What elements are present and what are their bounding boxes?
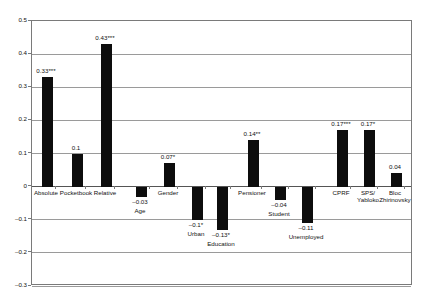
bar-value-label: –0.1* [168, 221, 224, 228]
bar [101, 44, 112, 186]
bar-value-label: 0.33*** [18, 67, 74, 74]
x-axis-label: Pensioner [222, 189, 282, 196]
y-tick-label: 0.4 [1, 49, 27, 56]
gridline [32, 153, 411, 154]
bar [364, 130, 375, 186]
y-tick-label: –0.1 [1, 215, 27, 222]
y-tick-label: –0.2 [1, 248, 27, 255]
x-axis-label: Gender [138, 189, 198, 196]
x-tick-mark [261, 186, 262, 189]
bar [42, 77, 53, 186]
y-tick-label: 0.2 [1, 115, 27, 122]
bar [337, 130, 348, 186]
bar-value-label: 0.04 [367, 163, 423, 170]
x-axis-label: Education [191, 240, 251, 247]
bar-value-label: –0.13* [193, 231, 249, 238]
gridline [32, 286, 411, 287]
y-tick-label: 0 [1, 182, 27, 189]
y-tick-label: 0.1 [1, 149, 27, 156]
bar-value-label: 0.07* [140, 153, 196, 160]
gridline [32, 87, 411, 88]
x-tick-mark [114, 186, 115, 189]
bar-value-label: –0.11 [278, 224, 334, 231]
y-tick-label: 0.3 [1, 82, 27, 89]
bar-value-label: –0.04 [251, 201, 307, 208]
x-tick-mark [205, 186, 206, 189]
y-tick-label: 0.5 [1, 16, 27, 23]
x-axis-label: Relative [75, 189, 135, 196]
bar-value-label: 0.17* [340, 120, 396, 127]
chart-figure: 0.50.40.30.20.10–0.1–0.2–0.3 0.33***Abso… [0, 0, 426, 297]
bar-value-label: –0.03 [112, 198, 168, 205]
gridline [32, 54, 411, 55]
bar [248, 140, 259, 186]
gridline [32, 252, 411, 253]
bar [72, 154, 83, 187]
bar-value-label: 0.14** [224, 130, 280, 137]
bar-value-label: 0.43*** [77, 34, 133, 41]
bar-value-label: 0.1 [48, 144, 104, 151]
x-axis-label: Bloc Zhirinovsky [378, 189, 412, 204]
bar [164, 163, 175, 186]
y-tick-label: –0.3 [1, 281, 27, 288]
x-axis-label: Student [249, 210, 309, 217]
x-axis-label: Unemployed [276, 233, 336, 240]
x-axis-label: Age [110, 207, 170, 214]
x-tick-mark [288, 186, 289, 189]
x-tick-mark [404, 186, 405, 189]
bar [391, 173, 402, 186]
x-tick-mark [177, 186, 178, 189]
